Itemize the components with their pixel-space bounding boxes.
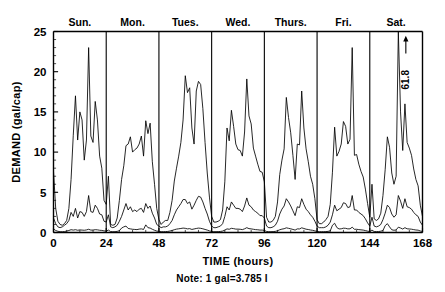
day-label: Sat. <box>387 16 406 28</box>
x-tick-label: 144 <box>360 237 380 249</box>
day-label: Sun. <box>68 16 91 28</box>
x-tick-label: 0 <box>50 237 56 249</box>
x-tick-label: 168 <box>413 237 433 249</box>
y-tick-label: 15 <box>34 106 47 118</box>
day-label: Thurs. <box>275 16 307 28</box>
chart-canvas: 0510152025024487296120144168Sun.Mon.Tues… <box>0 0 445 292</box>
figure-note: Note: 1 gal=3.785 l <box>176 273 267 284</box>
x-tick-label: 120 <box>307 237 326 249</box>
day-label: Wed. <box>226 16 251 28</box>
off-scale-arrow-head <box>403 36 408 42</box>
demand-time-series-figure: 0510152025024487296120144168Sun.Mon.Tues… <box>0 0 445 292</box>
x-tick-label: 96 <box>258 237 271 249</box>
y-tick-label: 25 <box>34 26 47 38</box>
y-tick-label: 0 <box>40 227 46 239</box>
y-tick-label: 20 <box>34 66 47 78</box>
off-scale-value-label: 61.8 <box>400 70 411 90</box>
x-axis-title: TIME (hours) <box>203 255 274 267</box>
day-label: Mon. <box>120 16 145 28</box>
x-tick-label: 24 <box>100 237 113 249</box>
day-label: Tues. <box>172 16 199 28</box>
series-line-high-demand-residence <box>54 32 423 226</box>
x-tick-label: 72 <box>205 237 218 249</box>
plot-area: 0510152025024487296120144168Sun.Mon.Tues… <box>10 16 433 285</box>
y-axis-title: DEMAND (gal/cap) <box>10 81 22 182</box>
x-tick-label: 48 <box>153 237 166 249</box>
y-tick-label: 5 <box>40 187 47 199</box>
y-tick-label: 10 <box>34 146 47 158</box>
day-label: Fri. <box>335 16 351 28</box>
